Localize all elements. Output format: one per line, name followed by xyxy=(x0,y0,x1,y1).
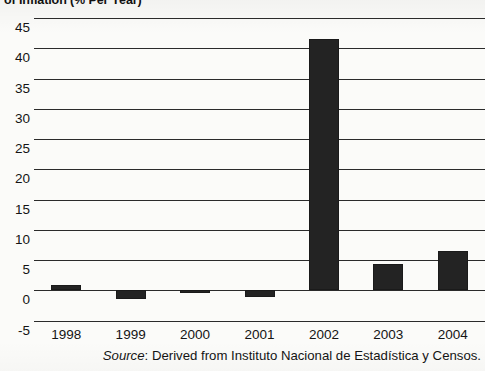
y-tick-label-15: 15 xyxy=(0,202,30,217)
x-tick-label-1999: 1999 xyxy=(116,326,146,343)
bar-2001 xyxy=(245,290,275,297)
x-tick-label-1998: 1998 xyxy=(51,326,81,343)
bar-1999 xyxy=(116,290,146,298)
bar-2004 xyxy=(438,251,468,290)
x-tick-label-2004: 2004 xyxy=(438,326,468,343)
x-tick-label-2002: 2002 xyxy=(309,326,339,343)
y-tick-label-20: 20 xyxy=(0,171,30,186)
y-tick-label-0: 0 xyxy=(0,292,30,307)
y-tick-label-25: 25 xyxy=(0,141,30,156)
bar-2000 xyxy=(180,290,210,293)
y-tick-label-35: 35 xyxy=(0,81,30,96)
bars-group xyxy=(34,0,485,325)
bar-2002 xyxy=(309,39,339,290)
y-tick-label-40: 40 xyxy=(0,50,30,65)
source-text: Derived from Instituto Nacional de Estad… xyxy=(152,348,481,363)
chart-figure: of Inflation (% Per Year) 45403530252015… xyxy=(0,0,485,371)
bar-1998 xyxy=(51,285,81,290)
source-separator: : xyxy=(145,348,152,363)
x-tick-label-2000: 2000 xyxy=(180,326,210,343)
x-tick-label-2003: 2003 xyxy=(373,326,403,343)
y-tick-label-5: 5 xyxy=(0,262,30,277)
x-tick-label-2001: 2001 xyxy=(244,326,274,343)
source-label: Source xyxy=(103,348,145,363)
y-tick-label--5: -5 xyxy=(0,323,30,338)
y-tick-label-45: 45 xyxy=(0,20,30,35)
x-axis-tick-labels: 1998199920002001200220032004 xyxy=(34,326,485,346)
plot-area: 454035302520151050-5 xyxy=(34,0,485,325)
source-note: Source: Derived from Instituto Nacional … xyxy=(0,347,485,364)
bar-2003 xyxy=(373,264,403,290)
y-tick-label-10: 10 xyxy=(0,232,30,247)
y-tick-label-30: 30 xyxy=(0,111,30,126)
